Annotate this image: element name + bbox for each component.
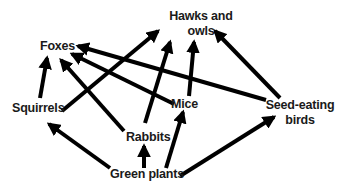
node-mice: Mice: [171, 97, 198, 112]
hawks-owls-line1: Hawks and: [163, 9, 239, 24]
seed-birds-line2: birds: [262, 113, 338, 128]
squirrels-label: Squirrels: [12, 101, 64, 115]
mice-label: Mice: [171, 97, 198, 111]
arrow-rabbits-to-hawks-owls: [145, 42, 170, 123]
arrow-plants-to-squirrels: [49, 124, 110, 168]
hawks-owls-line2: owls: [163, 24, 239, 39]
arrow-rabbits-to-foxes: [61, 60, 124, 131]
node-squirrels: Squirrels: [12, 101, 64, 116]
node-green-plants: Green plants: [110, 167, 184, 182]
green-plants-label: Green plants: [110, 167, 184, 181]
arrow-mice-to-hawks-owls: [189, 42, 194, 96]
arrow-plants-to-birds: [180, 117, 274, 176]
node-seed-eating-birds: Seed-eating birds: [262, 98, 338, 128]
arrow-squirrels-to-foxes: [40, 58, 47, 98]
node-foxes: Foxes: [40, 39, 75, 54]
food-web-diagram: Hawks and owls Foxes Squirrels Mice Seed…: [0, 0, 338, 193]
rabbits-label: Rabbits: [126, 130, 170, 144]
seed-birds-line1: Seed-eating: [262, 98, 338, 113]
node-hawks-and-owls: Hawks and owls: [163, 9, 239, 39]
node-rabbits: Rabbits: [126, 130, 170, 145]
foxes-label: Foxes: [40, 39, 75, 53]
